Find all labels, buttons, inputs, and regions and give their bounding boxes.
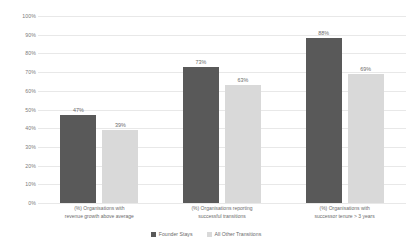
- y-axis-tick-label: 100%: [2, 13, 36, 19]
- legend-label: Founder Stays: [159, 231, 193, 237]
- x-axis-label-line: revenue growth above average: [38, 213, 161, 221]
- bar-value-label: 73%: [196, 59, 207, 65]
- bar-founder-stays[interactable]: [306, 38, 342, 203]
- y-axis-tick-label: 30%: [2, 144, 36, 150]
- y-axis-tick-label: 70%: [2, 69, 36, 75]
- x-axis-label-line: successful transitions: [161, 213, 284, 221]
- x-axis-label-line: (%) Organisations with: [38, 205, 161, 213]
- bar-group: 47%39%: [38, 16, 161, 203]
- bar-value-label: 39%: [115, 122, 126, 128]
- y-axis-tick-label: 40%: [2, 125, 36, 131]
- bar-all-other-transitions[interactable]: [225, 85, 261, 203]
- bar-all-other-transitions[interactable]: [102, 130, 138, 203]
- legend-label: All Other Transitions: [215, 231, 262, 237]
- y-axis-tick-label: 20%: [2, 163, 36, 169]
- bar-founder-stays[interactable]: [60, 115, 96, 203]
- bar-column[interactable]: 88%: [306, 16, 342, 203]
- bar-value-label: 47%: [73, 107, 84, 113]
- legend-item-founder-stays[interactable]: Founder Stays: [151, 231, 193, 237]
- y-axis: 0%10%20%30%40%50%60%70%80%90%100%: [0, 16, 36, 203]
- y-axis-tick-label: 90%: [2, 32, 36, 38]
- x-axis-category-labels: (%) Organisations withrevenue growth abo…: [38, 205, 406, 227]
- y-axis-tick-label: 60%: [2, 88, 36, 94]
- bar-founder-stays[interactable]: [183, 67, 219, 204]
- plot-area: 47%39%73%63%88%69%: [38, 16, 406, 203]
- y-axis-tick-label: 0%: [2, 200, 36, 206]
- gridline: [38, 203, 406, 204]
- bar-column[interactable]: 39%: [102, 16, 138, 203]
- bar-value-label: 69%: [360, 66, 371, 72]
- bar-group: 73%63%: [161, 16, 284, 203]
- x-axis-label: (%) Organisations withsuccessor tenure >…: [283, 205, 406, 220]
- x-axis-label: (%) Organisations withrevenue growth abo…: [38, 205, 161, 220]
- legend-swatch-icon: [207, 232, 212, 237]
- bar-value-label: 63%: [238, 77, 249, 83]
- bar-group: 88%69%: [283, 16, 406, 203]
- bar-column[interactable]: 69%: [348, 16, 384, 203]
- y-axis-tick-label: 10%: [2, 181, 36, 187]
- bar-chart: 0%10%20%30%40%50%60%70%80%90%100% 47%39%…: [0, 0, 412, 245]
- bar-column[interactable]: 63%: [225, 16, 261, 203]
- x-axis-label-line: successor tenure > 3 years: [283, 213, 406, 221]
- x-axis-label: (%) Organisations reportingsuccessful tr…: [161, 205, 284, 220]
- bar-column[interactable]: 47%: [60, 16, 96, 203]
- legend-item-all-other-transitions[interactable]: All Other Transitions: [207, 231, 262, 237]
- y-axis-tick-label: 80%: [2, 50, 36, 56]
- bar-column[interactable]: 73%: [183, 16, 219, 203]
- legend-swatch-icon: [151, 232, 156, 237]
- y-axis-tick-label: 50%: [2, 107, 36, 113]
- x-axis-label-line: (%) Organisations reporting: [161, 205, 284, 213]
- x-axis-label-line: (%) Organisations with: [283, 205, 406, 213]
- bar-value-label: 88%: [318, 30, 329, 36]
- chart-legend: Founder StaysAll Other Transitions: [0, 231, 412, 237]
- bar-all-other-transitions[interactable]: [348, 74, 384, 203]
